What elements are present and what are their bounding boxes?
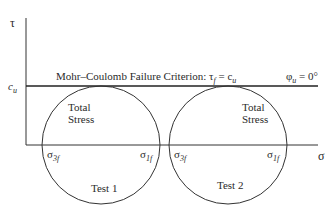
test2-label: Test 2 — [217, 179, 243, 191]
sigma-axis-label: σ — [318, 150, 324, 162]
criterion-label: Mohr–Coulomb Failure Criterion: τf = cu — [56, 70, 236, 87]
total-stress-label-2: TotalStress — [242, 101, 268, 125]
sigma1f-label-2: σ1f — [267, 148, 279, 165]
mohr-diagram-canvas — [0, 0, 331, 213]
phi-label: φu = 0° — [286, 70, 318, 87]
total-stress-label-1: TotalStress — [68, 101, 94, 125]
sigma3f-label-1: σ3f — [47, 148, 59, 165]
cu-axis-label: cu — [8, 80, 17, 97]
sigma3f-label-2: σ3f — [174, 148, 186, 165]
tau-axis-label: τ — [10, 17, 15, 29]
test1-label: Test 1 — [91, 182, 117, 194]
sigma1f-label-1: σ1f — [140, 148, 152, 165]
